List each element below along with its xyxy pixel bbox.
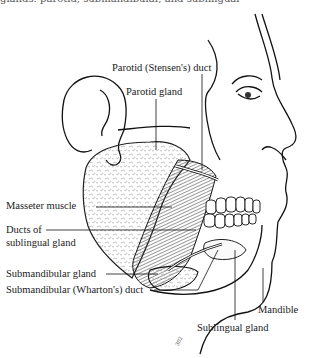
submandibular-gland-shape bbox=[148, 266, 198, 290]
teeth bbox=[204, 197, 260, 228]
label-masseter-muscle: Masseter muscle bbox=[6, 200, 76, 212]
sublingual-gland-shape bbox=[204, 239, 246, 259]
label-sublingual-gland-ducts: sublingual gland bbox=[6, 237, 76, 249]
label-submandibular-gland: Submandibular gland bbox=[6, 268, 96, 280]
label-ducts-of: Ducts of bbox=[6, 224, 42, 236]
label-parotid-gland: Parotid gland bbox=[126, 86, 182, 98]
label-parotid-duct: Parotid (Stensen's) duct bbox=[112, 62, 211, 74]
label-mandible: Mandible bbox=[258, 304, 298, 316]
label-submandibular-duct: Submandibular (Wharton's) duct bbox=[6, 284, 143, 296]
label-sublingual-gland: Sublingual gland bbox=[197, 322, 268, 334]
